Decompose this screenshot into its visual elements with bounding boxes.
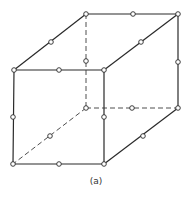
node-icon [11, 162, 16, 167]
node-icon [84, 59, 89, 64]
visible-edges [13, 14, 178, 164]
node-icon [131, 12, 136, 17]
node-icon [176, 60, 181, 65]
node-icon [102, 162, 107, 167]
node-icon [130, 106, 135, 111]
front-face [13, 70, 104, 164]
hidden-edges [13, 14, 178, 164]
hexahedral-element-diagram [0, 0, 192, 197]
node-icon [84, 12, 89, 17]
node-icon [48, 134, 53, 139]
nodes [11, 12, 181, 167]
node-icon [12, 68, 17, 73]
node-icon [49, 40, 54, 45]
figure-caption: (a) [0, 176, 192, 186]
node-icon [57, 162, 62, 167]
node-icon [11, 115, 16, 120]
node-icon [141, 134, 146, 139]
node-icon [139, 40, 144, 45]
node-icon [84, 106, 89, 111]
node-icon [176, 106, 181, 111]
node-icon [57, 68, 62, 73]
node-icon [102, 115, 107, 120]
node-icon [176, 12, 181, 17]
node-icon [102, 68, 107, 73]
